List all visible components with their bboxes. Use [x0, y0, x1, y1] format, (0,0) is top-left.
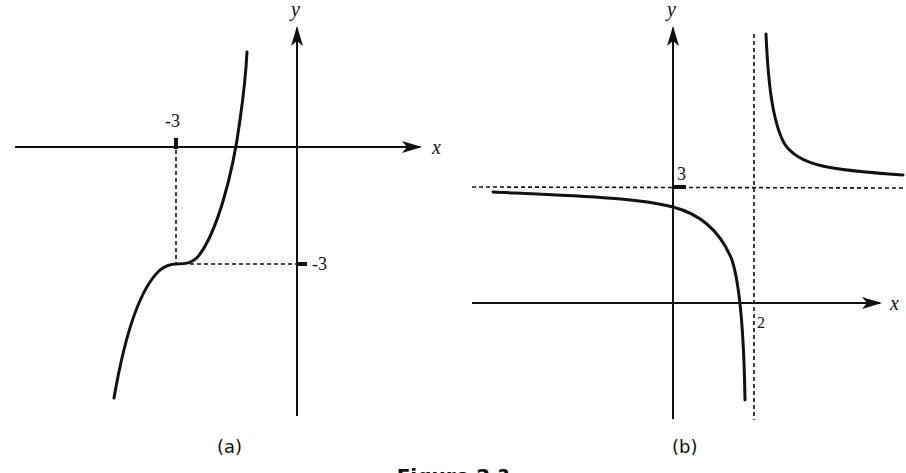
- x-tick-label-b: 2: [757, 314, 765, 331]
- x-axis-label-a: x: [431, 136, 441, 158]
- curve-b-right: [766, 34, 903, 175]
- y-tick-label-a: -3: [312, 254, 327, 274]
- curve-b-left: [493, 192, 745, 400]
- horizontal-asymptote-b: [472, 187, 906, 188]
- panel-label-b: (b): [672, 436, 697, 457]
- y-axis-label-a: y: [289, 0, 300, 21]
- y-tick-label-b: 3: [677, 164, 686, 184]
- panel-b: 3 2 x y (b): [472, 0, 906, 457]
- x-axis-label-b: x: [889, 292, 899, 314]
- figure-caption: Figure 2.?: [397, 464, 510, 473]
- curve-a: [114, 52, 247, 398]
- panel-label-a: (a): [217, 436, 242, 457]
- y-axis-label-b: y: [665, 0, 676, 21]
- x-tick-label-a: -3: [165, 111, 180, 131]
- panel-a: -3 -3 x y (a): [15, 0, 441, 457]
- figure-canvas: -3 -3 x y (a) 3 2 x y (b) Figure 2.?: [0, 0, 906, 473]
